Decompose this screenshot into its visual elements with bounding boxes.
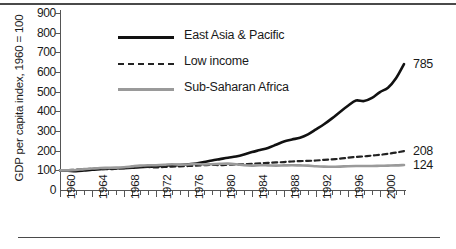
x-tick-mark-1964 xyxy=(92,191,93,197)
x-tick-mark-1983 xyxy=(244,191,245,195)
x-tick-mark-1979 xyxy=(212,191,213,195)
x-tick-mark-1995 xyxy=(340,191,341,195)
end-label-east-asia-pacific: 785 xyxy=(413,57,433,71)
y-tick-label-900: 900 xyxy=(24,7,56,19)
legend-swatch-sub-saharan-africa xyxy=(118,88,174,91)
x-tick-mark-1992 xyxy=(316,191,317,197)
x-tick-mark-1968 xyxy=(124,191,125,197)
y-tick-label-700: 700 xyxy=(24,46,56,58)
legend-label-low-income: Low income xyxy=(184,54,249,68)
x-tick-mark-1996 xyxy=(348,191,349,197)
x-tick-mark-1975 xyxy=(180,191,181,195)
y-tick-label-300: 300 xyxy=(24,125,56,137)
chart-figure: GDP per capita index, 1960 = 100 0100200… xyxy=(0,0,456,249)
y-tick-label-500: 500 xyxy=(24,86,56,98)
legend-swatch-east-asia-pacific xyxy=(118,36,174,39)
x-tick-mark-2003 xyxy=(404,191,405,195)
x-tick-mark-1987 xyxy=(276,191,277,195)
legend-swatch-low-income xyxy=(118,63,174,65)
end-label-sub-saharan-africa: 124 xyxy=(413,158,433,172)
x-tick-mark-1960 xyxy=(60,191,61,197)
bottom-divider xyxy=(18,237,440,238)
y-tick-label-100: 100 xyxy=(24,164,56,176)
x-tick-mark-1963 xyxy=(84,191,85,195)
x-tick-mark-1991 xyxy=(308,191,309,195)
y-tick-label-200: 200 xyxy=(24,145,56,157)
x-tick-mark-1971 xyxy=(148,191,149,195)
legend-label-sub-saharan-africa: Sub-Saharan Africa xyxy=(184,80,289,94)
y-tick-label-0: 0 xyxy=(24,184,56,196)
x-tick-mark-1999 xyxy=(372,191,373,195)
x-tick-mark-1980 xyxy=(220,191,221,197)
x-tick-mark-1988 xyxy=(284,191,285,197)
x-tick-mark-1972 xyxy=(156,191,157,197)
x-tick-mark-1984 xyxy=(252,191,253,197)
top-divider xyxy=(0,3,456,5)
y-tick-label-400: 400 xyxy=(24,105,56,117)
x-tick-mark-1976 xyxy=(188,191,189,197)
x-tick-mark-1967 xyxy=(116,191,117,195)
y-tick-label-600: 600 xyxy=(24,66,56,78)
legend-label-east-asia-pacific: East Asia & Pacific xyxy=(184,28,284,42)
y-tick-label-800: 800 xyxy=(24,27,56,39)
x-tick-mark-2000 xyxy=(380,191,381,197)
end-label-low-income: 208 xyxy=(413,144,433,158)
